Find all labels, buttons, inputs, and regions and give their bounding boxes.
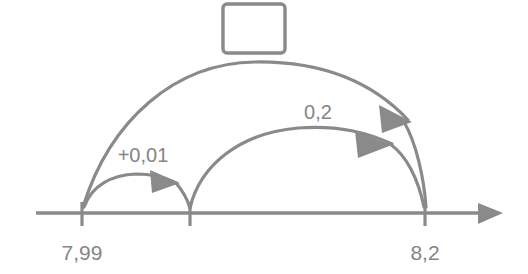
medium-jump-label: 0,2 bbox=[304, 101, 332, 123]
small-jump-arc-group bbox=[84, 170, 190, 208]
total-jump-arc-group bbox=[83, 62, 426, 207]
axis-group bbox=[36, 203, 503, 224]
answer-box-group[interactable] bbox=[223, 4, 285, 53]
axis-arrowhead bbox=[478, 203, 503, 224]
small-jump-label: +0,01 bbox=[118, 144, 169, 166]
medium-jump-arc-group bbox=[190, 127, 424, 208]
answer-box[interactable] bbox=[223, 4, 285, 53]
tick-label-right: 8,2 bbox=[410, 241, 439, 264]
tick-label-left: 7,99 bbox=[62, 241, 103, 264]
medium-jump-arc-tail bbox=[390, 144, 424, 207]
number-line-diagram: 7,99 8,2 +0,01 0,2 bbox=[0, 0, 528, 274]
number-line-svg: 7,99 8,2 +0,01 0,2 bbox=[0, 0, 528, 274]
small-jump-arc-tail bbox=[176, 183, 190, 208]
